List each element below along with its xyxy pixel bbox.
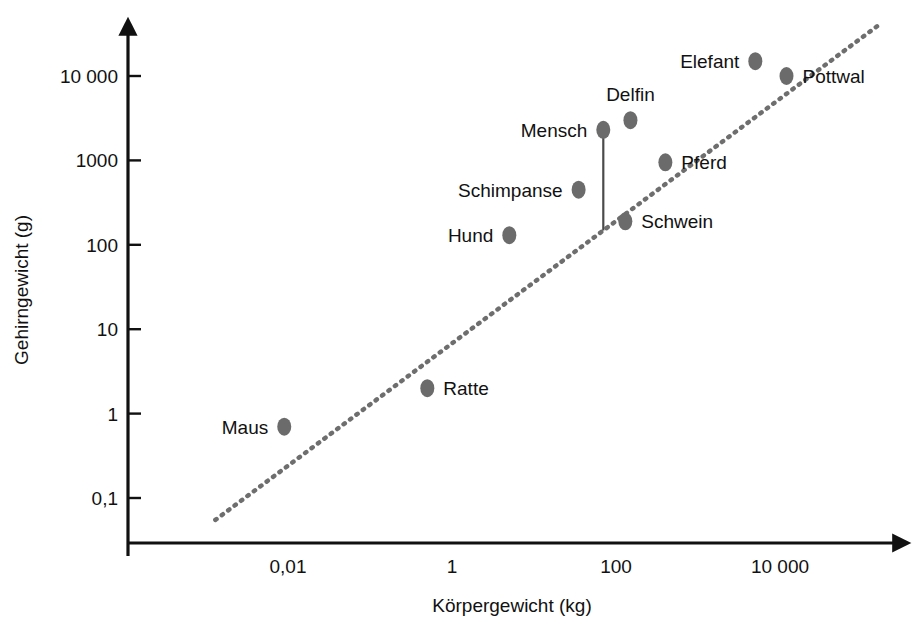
data-point[interactable]: Hund <box>448 225 516 246</box>
data-point-label: Ratte <box>443 378 488 399</box>
data-point-marker[interactable] <box>779 67 793 85</box>
data-point[interactable]: Schimpanse <box>458 180 586 201</box>
x-tick-label: 0,01 <box>270 556 307 577</box>
data-point-label: Schwein <box>641 211 713 232</box>
axes <box>128 32 896 556</box>
data-point[interactable]: Pottwal <box>779 66 864 87</box>
x-tick-label: 100 <box>600 556 632 577</box>
data-point-label: Pferd <box>681 152 726 173</box>
data-point-marker[interactable] <box>502 226 516 244</box>
y-tick-label: 1 <box>107 404 118 425</box>
data-point[interactable]: Delfin <box>606 84 655 129</box>
regression-trend-line <box>215 23 881 520</box>
y-tick-label: 1000 <box>76 150 118 171</box>
x-axis-title: Körpergewicht (kg) <box>432 595 591 616</box>
data-point[interactable]: Ratte <box>420 378 488 399</box>
data-point[interactable]: Pferd <box>658 152 726 173</box>
data-point-label: Hund <box>448 225 493 246</box>
data-point-marker[interactable] <box>658 153 672 171</box>
data-point[interactable]: Maus <box>222 417 291 438</box>
x-tick-label: 10 000 <box>751 556 809 577</box>
scatter-chart-figure: 10 00010001001010,1 0,01110010 000 MausR… <box>0 0 924 640</box>
data-point-label: Elefant <box>680 51 740 72</box>
data-point-marker[interactable] <box>623 111 637 129</box>
data-point-label: Schimpanse <box>458 180 563 201</box>
data-point-marker[interactable] <box>596 121 610 139</box>
x-tick-label: 1 <box>447 556 458 577</box>
data-point[interactable]: Elefant <box>680 51 762 72</box>
y-axis-title: Gehirngewicht (g) <box>11 215 32 365</box>
data-point-marker[interactable] <box>572 181 586 199</box>
data-point-marker[interactable] <box>277 418 291 436</box>
trend-line-group <box>215 23 881 520</box>
data-point[interactable]: Schwein <box>618 211 713 232</box>
x-axis-ticks: 0,01110010 000 <box>270 556 810 577</box>
data-point-marker[interactable] <box>420 379 434 397</box>
y-tick-label: 10 <box>97 319 118 340</box>
y-tick-label: 10 000 <box>60 66 118 87</box>
data-point-label: Mensch <box>521 120 588 141</box>
data-point-label: Maus <box>222 417 268 438</box>
y-tick-label: 0,1 <box>92 488 118 509</box>
data-point[interactable]: Mensch <box>521 120 611 141</box>
data-point-marker[interactable] <box>618 212 632 230</box>
y-tick-label: 100 <box>86 235 118 256</box>
data-point-marker[interactable] <box>748 52 762 70</box>
data-point-label: Delfin <box>606 84 655 105</box>
chart-canvas: 10 00010001001010,1 0,01110010 000 MausR… <box>0 0 924 640</box>
data-point-label: Pottwal <box>802 66 864 87</box>
